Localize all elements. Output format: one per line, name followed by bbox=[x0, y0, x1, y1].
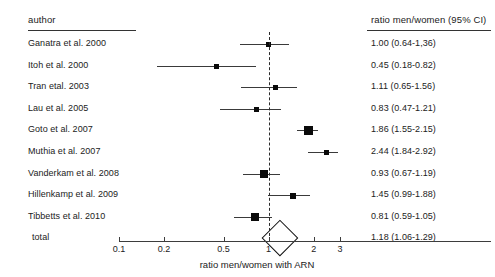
x-axis-tick bbox=[164, 237, 165, 241]
confidence-interval-line bbox=[241, 87, 298, 88]
forest-plot-figure: author ratio men/women (95% CI) Ganatra … bbox=[0, 0, 495, 277]
effect-marker bbox=[260, 170, 268, 178]
x-axis-tick bbox=[119, 237, 120, 241]
effect-marker bbox=[214, 64, 219, 69]
x-axis-tick bbox=[224, 237, 225, 241]
x-axis-tick-label: 1 bbox=[266, 244, 271, 254]
x-axis-tick bbox=[269, 237, 270, 241]
row-label: Muthia et al. 2007 bbox=[28, 146, 100, 156]
x-axis-tick-label: 3 bbox=[337, 244, 342, 254]
row-value-total: 1.18 (1.06-1.29) bbox=[371, 232, 436, 242]
effect-marker bbox=[266, 42, 272, 48]
summary-diamond bbox=[262, 220, 299, 257]
row-value: 0.83 (0.47-1.21) bbox=[371, 103, 436, 113]
row-label: Tran etal. 2003 bbox=[28, 81, 89, 91]
effect-marker bbox=[273, 85, 278, 90]
row-label: Ganatra et al. 2000 bbox=[28, 38, 106, 48]
column-header-author: author bbox=[28, 14, 56, 25]
row-label: Goto et al. 2007 bbox=[28, 124, 93, 134]
effect-marker bbox=[251, 213, 259, 221]
confidence-interval-line bbox=[308, 152, 338, 153]
row-label: Tibbetts et al. 2010 bbox=[28, 211, 105, 221]
row-value: 1.86 (1.55-2.15) bbox=[371, 124, 436, 134]
row-value: 2.44 (1.84-2.92) bbox=[371, 146, 436, 156]
confidence-interval-line bbox=[243, 174, 280, 175]
row-label-total: total bbox=[32, 232, 49, 242]
row-value: 0.93 (0.67-1.19) bbox=[371, 168, 436, 178]
row-value: 1.45 (0.99-1.88) bbox=[371, 189, 436, 199]
row-label: Lau et al. 2005 bbox=[28, 103, 88, 113]
row-value: 1.11 (0.65-1.56) bbox=[371, 81, 435, 91]
confidence-interval-line bbox=[240, 44, 289, 45]
null-reference-line bbox=[269, 32, 270, 241]
column-header-ratio: ratio men/women (95% CI) bbox=[371, 14, 486, 25]
x-axis-tick bbox=[314, 237, 315, 241]
confidence-interval-line bbox=[234, 217, 271, 218]
x-axis-tick-label: 0.1 bbox=[113, 244, 126, 254]
x-axis-tick-label: 0.5 bbox=[217, 244, 230, 254]
row-value: 1.00 (0.64-1,36) bbox=[371, 38, 436, 48]
effect-marker bbox=[290, 193, 296, 199]
confidence-interval-line bbox=[268, 195, 310, 196]
row-value: 0.45 (0.18-0.82) bbox=[371, 60, 436, 70]
column-header-ratio-rule bbox=[367, 30, 491, 31]
row-value: 0.81 (0.59-1.05) bbox=[371, 211, 436, 221]
row-label: Vanderkam et al. 2008 bbox=[28, 168, 119, 178]
confidence-interval-line bbox=[220, 109, 281, 110]
x-axis-tick bbox=[340, 237, 341, 241]
x-axis-tick-label: 2 bbox=[311, 244, 316, 254]
confidence-interval-line bbox=[157, 66, 256, 67]
x-axis-tick-label: 0.2 bbox=[158, 244, 171, 254]
effect-marker bbox=[254, 107, 259, 112]
effect-marker bbox=[324, 150, 330, 156]
confidence-interval-line bbox=[297, 130, 318, 131]
row-label: Hillenkamp et al. 2009 bbox=[28, 189, 118, 199]
effect-marker bbox=[304, 126, 313, 135]
column-header-author-rule bbox=[28, 30, 136, 31]
row-label: Itoh et al. 2000 bbox=[28, 60, 88, 70]
x-axis-title: ratio men/women with ARN bbox=[200, 259, 315, 270]
